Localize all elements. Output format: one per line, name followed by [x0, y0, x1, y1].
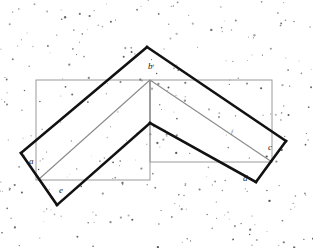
thin-right-diagonal [150, 80, 272, 162]
seg-inner-left [57, 123, 150, 205]
label-d: d [243, 174, 248, 183]
seg-d-back [150, 123, 256, 182]
thin-left-diagonal [38, 80, 150, 180]
label-b: b [148, 62, 153, 71]
label-e: e [59, 186, 63, 195]
thin-gray-lines-layer [38, 80, 272, 180]
label-f: f [231, 129, 233, 136]
seg-b-right-down [147, 47, 286, 141]
geometry-figure-canvas: a b c d e f [0, 0, 313, 248]
figure-svg [0, 0, 313, 248]
label-a: a [29, 157, 34, 166]
seg-e-corner [21, 153, 57, 205]
label-c: c [268, 143, 272, 152]
background-noise-dots [0, 0, 313, 248]
